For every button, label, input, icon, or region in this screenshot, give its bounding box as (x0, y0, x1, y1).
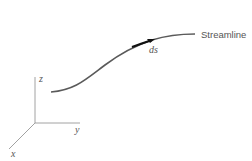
y-axis-label: y (75, 124, 79, 135)
z-axis-label: z (39, 73, 43, 84)
streamline-curve (51, 34, 195, 92)
streamline-diagram (0, 0, 252, 161)
x-axis (9, 123, 35, 149)
ds-label: ds (149, 44, 158, 55)
x-axis-label: x (11, 148, 15, 159)
streamline-label: Streamline (201, 29, 246, 40)
